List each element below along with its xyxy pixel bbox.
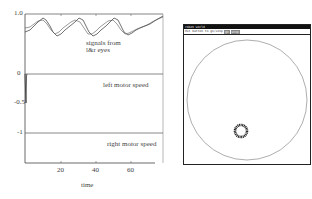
left-motor-annotation: left motor speed bbox=[103, 82, 149, 89]
arena-canvas bbox=[184, 35, 310, 164]
stop-button[interactable]: stop bbox=[231, 30, 240, 34]
instruction-label: Hit button to go/stop bbox=[185, 29, 223, 34]
x-tick-20: 20 bbox=[57, 167, 64, 174]
eye-signal-annotation-line2: l&r eyes bbox=[86, 47, 110, 54]
y-tick-neg-1: -1 bbox=[17, 129, 23, 136]
left-eye-signal bbox=[25, 16, 163, 36]
x-tick-40: 40 bbox=[92, 167, 99, 174]
arena-boundary-circle bbox=[187, 40, 307, 160]
right-motor-annotation: right motor speed bbox=[107, 141, 156, 148]
go-button[interactable]: go bbox=[224, 30, 230, 34]
y-tick-0: 0 bbox=[17, 70, 21, 77]
robot-trajectory-ring bbox=[235, 125, 247, 137]
y-tick-1: 1.0 bbox=[14, 10, 23, 17]
x-axis-label: time bbox=[81, 182, 93, 189]
y-tick-neg-half: -0.5 bbox=[14, 99, 25, 106]
simulation-window: robot world Hit button to go/stop go sto… bbox=[183, 24, 311, 165]
x-tick-60: 60 bbox=[127, 167, 134, 174]
